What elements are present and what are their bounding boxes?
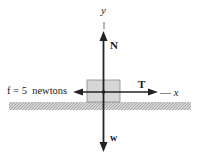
- normal-force-arrowhead-icon: [100, 31, 108, 41]
- friction-arrowhead-icon: [73, 89, 83, 96]
- x-axis-label-group: — x: [160, 87, 179, 98]
- friction-force-label: f = 5 newtons: [7, 86, 67, 97]
- tension-arrowhead-icon: [148, 89, 158, 96]
- tension-force-label: T: [138, 79, 145, 90]
- free-body-diagram: y N T — x f = 5 newtons w: [0, 0, 198, 162]
- y-axis-label: y: [101, 5, 106, 16]
- normal-force-label: N: [110, 40, 118, 51]
- origin-point: [102, 90, 106, 94]
- weight-force-label: w: [110, 133, 117, 143]
- ground-surface: [9, 102, 191, 110]
- x-axis-dash: —: [160, 86, 171, 98]
- x-axis-label: x: [174, 86, 179, 98]
- weight-arrowhead-icon: [100, 142, 108, 152]
- diagram-graphics: [0, 0, 198, 162]
